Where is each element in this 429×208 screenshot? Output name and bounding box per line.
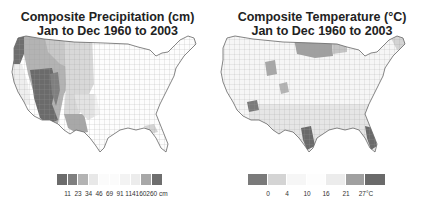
legend-swatch — [346, 174, 366, 185]
legend-label: 4 — [285, 190, 289, 197]
legend-label: 91 — [116, 190, 123, 197]
legend-label: 34 — [85, 190, 92, 197]
temperature-legend-labels: 0 4 10 16 21 27°C — [248, 190, 398, 200]
legend-label: 0 — [266, 190, 270, 197]
legend-swatch — [326, 174, 346, 185]
legend-swatch — [57, 174, 68, 185]
precipitation-panel: Composite Precipitation (cm) Jan to Dec … — [0, 0, 215, 208]
legend-label: 11 — [64, 190, 71, 197]
legend-label: 21 — [342, 190, 349, 197]
legend-swatch — [110, 174, 121, 185]
precipitation-legend-labels: 11 23 34 46 69 91 114 160 260 cm — [57, 190, 187, 200]
legend-swatch — [78, 174, 89, 185]
legend-label: 114 — [125, 190, 135, 197]
legend-swatch — [131, 174, 142, 185]
temperature-title: Composite Temperature (°C) — [215, 10, 429, 24]
legend-label: 16 — [322, 190, 329, 197]
legend-swatch — [99, 174, 110, 185]
legend-swatch — [120, 174, 131, 185]
legend-swatch — [248, 174, 268, 185]
precipitation-map — [4, 34, 212, 162]
precipitation-legend-bar — [57, 174, 162, 185]
legend-swatch — [287, 174, 307, 185]
temperature-legend-bar — [248, 174, 385, 185]
temperature-map — [219, 34, 427, 162]
legend-label: 23 — [74, 190, 81, 197]
legend-label: 69 — [106, 190, 113, 197]
legend-swatch — [152, 174, 163, 185]
legend-label: 10 — [303, 190, 310, 197]
legend-label: 46 — [95, 190, 102, 197]
legend-label: 160 — [136, 190, 147, 197]
precipitation-title: Composite Precipitation (cm) — [0, 10, 215, 24]
legend-swatch — [268, 174, 288, 185]
legend-swatch — [68, 174, 79, 185]
legend-swatch — [365, 174, 385, 185]
legend-label: 260 cm — [146, 190, 167, 197]
legend-swatch — [89, 174, 100, 185]
legend-swatch — [141, 174, 152, 185]
legend-swatch — [307, 174, 327, 185]
temperature-panel: Composite Temperature (°C) Jan to Dec 19… — [215, 0, 429, 208]
legend-label: 27°C — [359, 190, 374, 197]
